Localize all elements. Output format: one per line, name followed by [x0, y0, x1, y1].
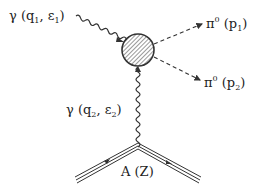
photon2-label: γ (q2, ε2) — [66, 103, 122, 119]
photon1-label: γ (q1, ε1) — [9, 9, 65, 25]
interaction-blob — [122, 34, 154, 66]
photon-line-1 — [73, 15, 129, 41]
pion1-label: π0 (p1) — [206, 16, 247, 33]
pion-line-1 — [154, 24, 202, 44]
pion2-label: π0 (p2) — [204, 75, 245, 92]
photon-line-2 — [136, 67, 140, 147]
pion-line-2 — [154, 57, 200, 80]
nucleus-label: A (Z) — [121, 165, 154, 178]
